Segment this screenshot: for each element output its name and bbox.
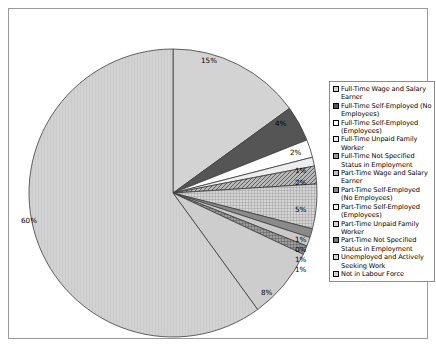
- pie-chart: [23, 43, 323, 343]
- pie-slices: [29, 49, 317, 337]
- legend-item[interactable]: Part-Time Self-Employed (No Employees): [333, 186, 432, 203]
- legend-item[interactable]: Part-Time Wage and Salary Earner: [333, 169, 432, 186]
- legend-item[interactable]: Full-Time Self-Employed (No Employees): [333, 102, 432, 119]
- legend: Full-Time Wage and Salary Earner Full-Ti…: [329, 81, 435, 282]
- chart-frame: 15% 4% 2% 1% 2% 5% 1% 0% 1% 1% 8% 60% Fu…: [8, 8, 428, 339]
- legend-swatch-icon: [333, 170, 339, 176]
- legend-swatch-icon: [333, 204, 339, 210]
- slice-label-pt-unpaid-family: 1%: [295, 255, 306, 264]
- legend-item[interactable]: Full-Time Self-Employed (Employees): [333, 119, 432, 136]
- legend-item[interactable]: Part-Time Unpaid Family Worker: [333, 220, 432, 237]
- legend-item[interactable]: Full-Time Unpaid Family Worker: [333, 135, 432, 152]
- legend-item-label: Part-Time Wage and Salary Earner: [341, 169, 432, 186]
- slice-label-pt-self-emp-no-emp: 1%: [295, 235, 306, 244]
- legend-item[interactable]: Not in Labour Force: [333, 270, 432, 278]
- legend-swatch-icon: [333, 153, 339, 159]
- pie-svg: [23, 43, 323, 343]
- legend-swatch-icon: [333, 103, 339, 109]
- legend-swatch-icon: [333, 136, 339, 142]
- legend-item-label: Part-Time Unpaid Family Worker: [341, 220, 432, 237]
- slice-label-pt-self-emp-emp: 0%: [295, 245, 306, 254]
- legend-item-label: Full-Time Not Specified Status in Employ…: [341, 152, 432, 169]
- legend-item[interactable]: Full-Time Wage and Salary Earner: [333, 85, 432, 102]
- legend-item[interactable]: Full-Time Not Specified Status in Employ…: [333, 152, 432, 169]
- slice-label-ft-not-specified: 2%: [295, 178, 306, 187]
- legend-swatch-icon: [333, 86, 339, 92]
- legend-item-label: Full-Time Unpaid Family Worker: [341, 135, 432, 152]
- legend-swatch-icon: [333, 271, 339, 277]
- slice-label-ft-self-emp-no-emp: 4%: [275, 119, 286, 128]
- legend-item-label: Full-Time Self-Employed (No Employees): [341, 102, 432, 119]
- legend-item-label: Part-Time Self-Employed (No Employees): [341, 186, 432, 203]
- slice-label-ft-unpaid-family: 1%: [295, 166, 306, 175]
- legend-swatch-icon: [333, 187, 339, 193]
- chart-canvas: 15% 4% 2% 1% 2% 5% 1% 0% 1% 1% 8% 60% Fu…: [0, 0, 436, 347]
- legend-item-label: Full-Time Self-Employed (Employees): [341, 119, 432, 136]
- legend-item-label: Part-Time Not Specified Status in Employ…: [341, 236, 432, 253]
- slice-label-ft-self-emp-emp: 2%: [290, 148, 301, 157]
- legend-item-label: Full-Time Wage and Salary Earner: [341, 85, 432, 102]
- legend-item-label: Part-Time Self-Employed (Employees): [341, 203, 432, 220]
- legend-swatch-icon: [333, 120, 339, 126]
- legend-swatch-icon: [333, 254, 339, 260]
- slice-label-pt-not-specified: 1%: [295, 265, 306, 274]
- legend-item[interactable]: Part-Time Self-Employed (Employees): [333, 203, 432, 220]
- legend-item[interactable]: Unemployed and Actively Seeking Work: [333, 253, 432, 270]
- slice-label-full-time-wage: 15%: [201, 56, 217, 65]
- slice-label-unemployed: 8%: [261, 288, 272, 297]
- legend-item-label: Not in Labour Force: [341, 270, 404, 278]
- slice-label-pt-wage: 5%: [295, 205, 306, 214]
- legend-swatch-icon: [333, 237, 339, 243]
- legend-item-label: Unemployed and Actively Seeking Work: [341, 253, 432, 270]
- slice-label-not-in-labour-force: 60%: [21, 216, 37, 225]
- legend-item[interactable]: Part-Time Not Specified Status in Employ…: [333, 236, 432, 253]
- legend-swatch-icon: [333, 221, 339, 227]
